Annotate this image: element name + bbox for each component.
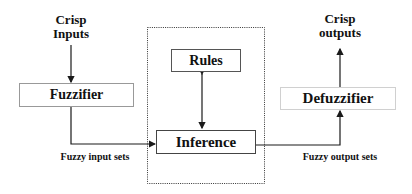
defuzzifier-label: Defuzzifier (303, 90, 374, 107)
crisp-inputs-line2: Inputs (41, 27, 101, 41)
defuzzifier-box: Defuzzifier (280, 87, 396, 110)
fuzzy-output-sets-label: Fuzzy output sets (285, 150, 395, 164)
crisp-outputs-label: Crisp outputs (305, 12, 375, 40)
inference-label: Inference (176, 134, 237, 151)
crisp-outputs-line1: Crisp (305, 12, 375, 26)
fuzzy-input-sets-label: Fuzzy input sets (50, 150, 140, 164)
crisp-outputs-line2: outputs (305, 26, 375, 40)
fuzzy-input-arrow (71, 107, 155, 144)
inference-box: Inference (156, 130, 256, 154)
crisp-inputs-line1: Crisp (41, 13, 101, 27)
fuzzy-output-arrow (256, 111, 340, 145)
fuzzifier-box: Fuzzifier (19, 83, 134, 107)
fuzzy-logic-system-diagram: Crisp Inputs Fuzzifier Rules Inference D… (0, 0, 412, 194)
crisp-inputs-label: Crisp Inputs (41, 13, 101, 41)
rules-label: Rules (189, 53, 222, 69)
fuzzifier-label: Fuzzifier (50, 87, 104, 103)
rules-box: Rules (171, 49, 241, 72)
